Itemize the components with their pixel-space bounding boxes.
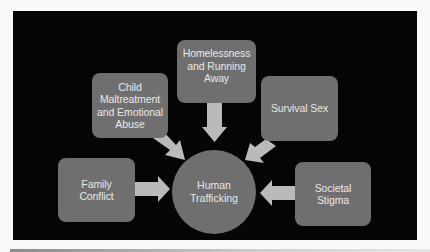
center-node-human-trafficking: Human Trafficking [172, 150, 256, 234]
node-societal-stigma: Societal Stigma [295, 162, 371, 226]
node-label-line: Homelessness [183, 47, 251, 60]
center-label-line: Trafficking [190, 192, 238, 205]
node-label-line: Abuse [97, 118, 163, 131]
node-family-conflict: Family Conflict [58, 158, 135, 222]
node-homelessness: Homelessness and Running Away [177, 40, 256, 103]
center-label-line: Human [190, 179, 238, 192]
node-child-maltreatment: Child Maltreatment and Emotional Abuse [92, 73, 168, 138]
node-label-line: Family [79, 178, 113, 191]
node-label-line: Societal [315, 182, 352, 195]
node-label-line: Stigma [315, 194, 352, 207]
node-label-line: Child [97, 81, 163, 94]
node-label-line: Away [183, 72, 251, 85]
node-label-line: Survival Sex [271, 102, 328, 115]
node-label-line: and Running [183, 60, 251, 73]
node-survival-sex: Survival Sex [261, 76, 338, 141]
page: Family Conflict Child Maltreatment and E… [0, 0, 430, 252]
node-label-line: Conflict [79, 190, 113, 203]
node-label-line: and Emotional [97, 106, 163, 119]
node-label-line: Maltreatment [97, 93, 163, 106]
